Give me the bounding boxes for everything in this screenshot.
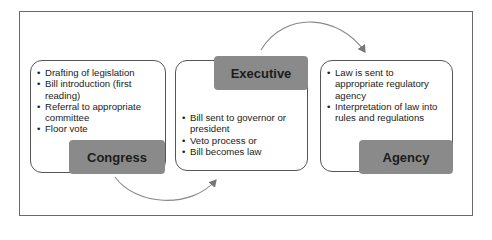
stage-label-agency: Agency (359, 140, 453, 174)
arrow-executive-to-agency (261, 22, 365, 52)
congress-bullet-list: Drafting of legislation Bill introductio… (36, 67, 164, 135)
agency-bullet: Interpretation of law into rules and reg… (326, 101, 444, 124)
agency-bullet-list: Law is sent to appropriate regulatory ag… (326, 67, 444, 123)
congress-bullet: Bill introduction (first reading) (36, 78, 164, 101)
congress-bullet: Drafting of legislation (36, 67, 164, 78)
executive-bullet: Veto process or (181, 135, 306, 146)
arrow-congress-to-executive (115, 177, 216, 200)
agency-bullet: Law is sent to appropriate regulatory ag… (326, 67, 444, 101)
stage-label-executive: Executive (214, 56, 308, 90)
congress-bullet: Floor vote (36, 123, 164, 134)
congress-bullet: Referral to appropriate committee (36, 101, 164, 124)
stage-label-congress: Congress (69, 140, 165, 174)
executive-bullet: Bill sent to governor or president (181, 112, 306, 135)
executive-bullet: Bill becomes law (181, 146, 306, 157)
executive-bullet-list: Bill sent to governor or president Veto … (181, 112, 306, 157)
